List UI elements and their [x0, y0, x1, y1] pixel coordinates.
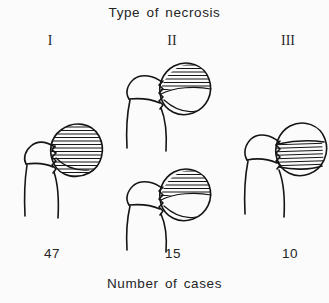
femoral-shaft-lateral-border [127, 206, 130, 250]
femoral-head-outline [160, 169, 211, 221]
case-count-type-3: 10 [270, 246, 310, 261]
necrosis-demarcation-arc [161, 87, 211, 94]
necrosis-type-figure: Type of necrosis I II III [0, 0, 329, 303]
case-count-type-1: 47 [32, 246, 72, 261]
greater-trochanter-outline [127, 76, 162, 99]
femur-drawing-type-2-upper [112, 56, 217, 161]
head-inner-arc [56, 158, 89, 170]
column-heading-type-1: I [30, 33, 70, 49]
femur-drawing-type-1 [14, 118, 114, 223]
greater-trochanter-outline [245, 135, 279, 160]
trochanter-lower-border [247, 159, 277, 163]
column-heading-type-3: III [268, 33, 308, 49]
figure-footer-label: Number of cases [0, 276, 329, 291]
femoral-shaft-medial-border [54, 172, 58, 218]
femoral-head-outline [160, 63, 211, 115]
greater-trochanter-outline [127, 182, 162, 205]
trochanter-lower-border [26, 163, 53, 167]
femur-drawing-type-3 [238, 116, 329, 224]
figure-title: Type of necrosis [0, 5, 329, 20]
femoral-shaft-medial-border [161, 108, 166, 151]
femoral-shaft-lateral-border [245, 161, 248, 214]
femoral-shaft-lateral-border [127, 100, 130, 148]
column-heading-type-2: II [152, 33, 192, 49]
necrosis-demarcation-arc [161, 193, 211, 200]
necrosis-band-lower-border [279, 166, 322, 169]
case-count-type-2: 15 [153, 246, 193, 261]
femoral-shaft-lateral-border [25, 165, 27, 216]
femoral-shaft-medial-border [279, 170, 284, 217]
trochanter-lower-border [129, 99, 160, 103]
trochanter-lower-border [129, 205, 160, 209]
